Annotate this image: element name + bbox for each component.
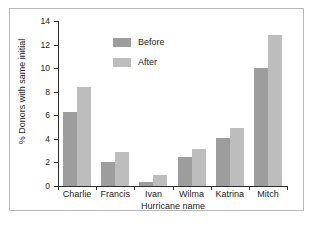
legend-item-before[interactable]: Before [113, 35, 165, 49]
y-axis-tick-label: 0 [10, 182, 50, 191]
chart-frame: 02468101214 CharlieFrancisIvanWilmaKatri… [9, 8, 304, 211]
legend-label-after: After [138, 58, 157, 67]
bar-before-charlie[interactable] [63, 112, 77, 186]
y-axis-title: % Donors with same initial [18, 17, 27, 167]
x-axis-tick [287, 186, 288, 190]
x-axis-label-wilma: Wilma [173, 190, 211, 199]
x-axis-label-ivan: Ivan [134, 190, 172, 199]
bar-after-charlie[interactable] [77, 87, 91, 186]
x-axis-label-francis: Francis [96, 190, 134, 199]
bar-after-francis[interactable] [115, 152, 129, 186]
bar-before-ivan[interactable] [139, 182, 153, 186]
bar-after-mitch[interactable] [268, 35, 282, 186]
legend-item-after[interactable]: After [113, 55, 165, 69]
plot-area [58, 21, 287, 186]
legend-swatch-before [113, 38, 131, 47]
x-axis-label-katrina: Katrina [211, 190, 249, 199]
bar-group [178, 21, 206, 186]
legend-swatch-after [113, 58, 131, 67]
bar-before-wilma[interactable] [178, 157, 192, 186]
bar-group [254, 21, 282, 186]
bar-after-wilma[interactable] [192, 149, 206, 186]
bar-group [63, 21, 91, 186]
bar-before-francis[interactable] [101, 162, 115, 186]
x-axis-label-mitch: Mitch [249, 190, 287, 199]
bar-group [216, 21, 244, 186]
bar-after-ivan[interactable] [153, 175, 167, 186]
x-axis-label-charlie: Charlie [58, 190, 96, 199]
y-axis-tick-label: 14 [10, 17, 50, 26]
x-axis-title: Hurricane name [58, 202, 288, 211]
y-axis-tick-label: 2 [10, 158, 50, 167]
bar-before-mitch[interactable] [254, 68, 268, 186]
bar-before-katrina[interactable] [216, 138, 230, 186]
legend-label-before: Before [138, 38, 165, 47]
bar-after-katrina[interactable] [230, 128, 244, 186]
chart-legend: BeforeAfter [113, 35, 165, 75]
